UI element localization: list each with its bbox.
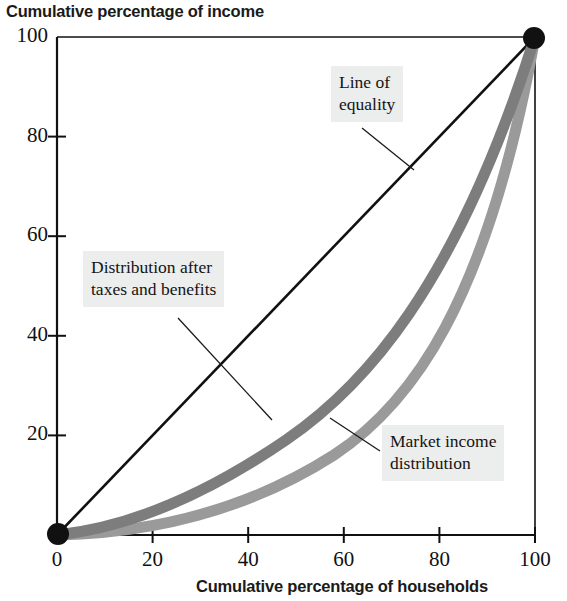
annotation-line-of-equality: Line of equality <box>331 66 403 122</box>
lorenz-curve-chart: Cumulative percentage of income 100 80 6… <box>0 0 567 601</box>
annotation-distribution-after-taxes-and-benefits: Distribution after taxes and benefits <box>83 251 224 307</box>
leader-line-after-taxes <box>178 318 272 420</box>
annotation-market-income-distribution: Market income distribution <box>382 425 504 481</box>
leader-line-equality <box>362 128 414 170</box>
xaxis-title: Cumulative percentage of households <box>196 577 488 596</box>
endpoint-marker <box>523 27 545 49</box>
origin-marker <box>47 523 69 545</box>
